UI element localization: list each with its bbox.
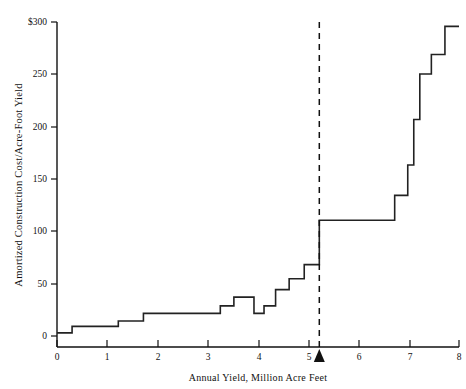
y-tick-label-200: 200: [33, 122, 48, 132]
y-axis-ticks: [51, 22, 57, 336]
y-tick-label-300: $300: [28, 17, 47, 27]
chart-plot-area: $300 250 200 150 100 50 0 0 1 2 3 4: [0, 0, 466, 389]
x-axis-ticks: [57, 340, 459, 347]
y-tick-label-50: 50: [38, 279, 48, 289]
y-tick-label-100: 100: [33, 226, 48, 236]
x-tick-label-8: 8: [457, 352, 462, 362]
x-tick-label-4: 4: [257, 352, 262, 362]
x-axis-tick-labels: 0 1 2 3 4 5 6 7 8: [55, 352, 462, 362]
x-axis-title: Annual Yield, Million Acre Feet: [189, 372, 328, 383]
x-tick-label-5: 5: [307, 352, 312, 362]
x-tick-label-2: 2: [156, 352, 161, 362]
planning-target-marker: [314, 349, 325, 362]
x-tick-label-7: 7: [408, 352, 413, 362]
y-axis-title: Amortized Construction Cost/Acre-Foot Yi…: [13, 83, 24, 287]
y-tick-label-150: 150: [33, 174, 48, 184]
axis-lines: [57, 22, 459, 347]
x-tick-label-1: 1: [105, 352, 110, 362]
x-tick-label-3: 3: [206, 352, 211, 362]
y-tick-label-250: 250: [33, 69, 48, 79]
y-tick-label-0: 0: [42, 331, 47, 341]
x-tick-label-0: 0: [55, 352, 60, 362]
y-axis-tick-labels: $300 250 200 150 100 50 0: [28, 17, 47, 341]
chart-root: $300 250 200 150 100 50 0 0 1 2 3 4: [0, 0, 466, 389]
x-tick-label-6: 6: [357, 352, 362, 362]
step-cost-curve: [57, 26, 459, 333]
